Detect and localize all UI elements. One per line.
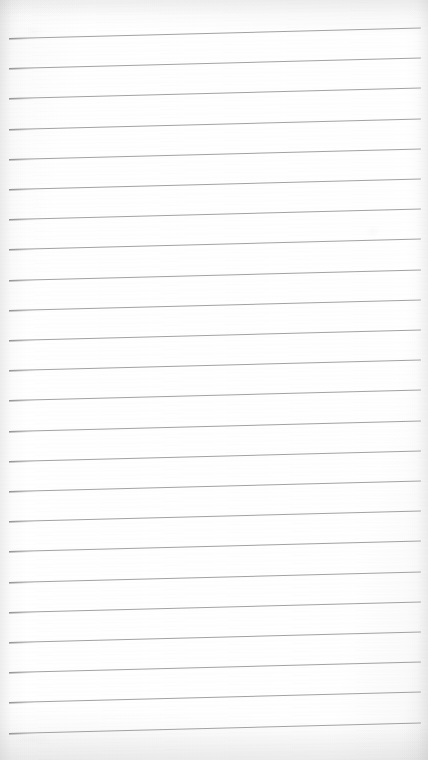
- lined-paper-sheet: [0, 0, 428, 760]
- writing-area[interactable]: [9, 20, 421, 740]
